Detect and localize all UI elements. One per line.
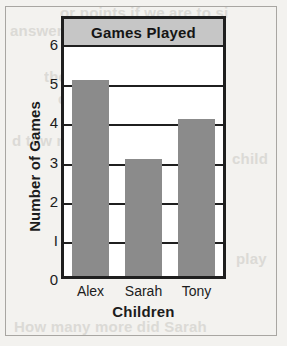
y-axis-tick-label: 6	[34, 37, 58, 52]
y-axis-tick-label: 0	[34, 272, 58, 287]
x-axis-tick-label: Sarah	[125, 283, 162, 299]
plot-area	[64, 47, 223, 276]
y-axis-tick-label: 5	[34, 76, 58, 91]
y-axis-tick-label: 4	[34, 115, 58, 130]
y-axis-tick-label: 2	[34, 193, 58, 208]
bar-series	[64, 47, 223, 276]
scanned-page: or points if we are to si answer the num…	[0, 0, 287, 346]
x-axis-tick-labels: AlexSarahTony	[61, 283, 226, 303]
bar	[72, 80, 109, 276]
y-axis-tick-label: 3	[34, 154, 58, 169]
y-axis-tick-label: I	[34, 232, 58, 247]
bar-chart-figure: Number of Games 0I23456 Games Played Ale…	[0, 0, 287, 346]
y-axis-tick-labels: 0I23456	[34, 44, 58, 279]
x-axis-tick-label: Tony	[182, 283, 212, 299]
x-axis-tick-label: Alex	[77, 283, 104, 299]
chart-title-banner: Games Played	[64, 19, 223, 47]
plot-frame: Games Played	[61, 16, 226, 279]
chart-title: Games Played	[91, 24, 196, 41]
bar	[178, 119, 215, 276]
bar	[125, 159, 162, 277]
x-axis-title: Children	[61, 303, 226, 320]
